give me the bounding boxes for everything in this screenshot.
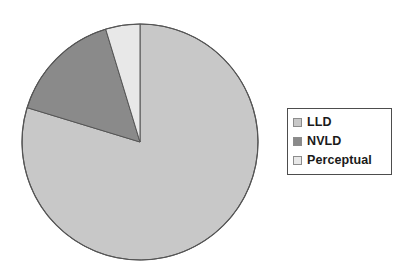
legend-swatch-lld [293, 118, 302, 127]
chart-canvas: LLD NVLD Perceptual [0, 0, 406, 278]
pie-slice-group [22, 24, 258, 260]
legend-item-perceptual[interactable]: Perceptual [293, 151, 391, 170]
legend-label-lld: LLD [307, 116, 332, 129]
legend-swatch-perceptual [293, 156, 302, 165]
legend-item-nvld[interactable]: NVLD [293, 132, 391, 151]
legend-item-lld[interactable]: LLD [293, 113, 391, 132]
chart-legend: LLD NVLD Perceptual [287, 108, 392, 175]
legend-label-nvld: NVLD [307, 135, 341, 148]
legend-label-perceptual: Perceptual [307, 154, 372, 167]
legend-swatch-nvld [293, 137, 302, 146]
